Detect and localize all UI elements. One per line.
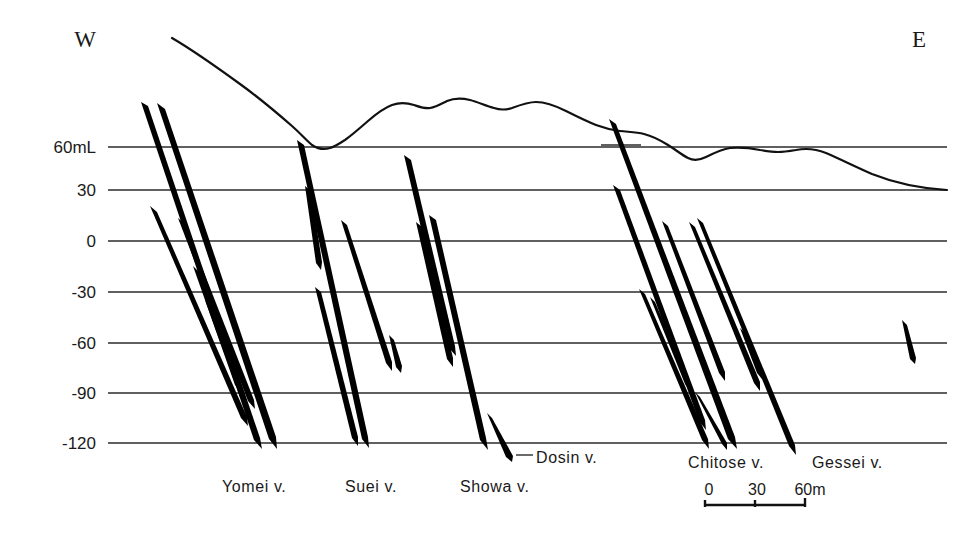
vein-label-showa: Showa v. (460, 478, 529, 495)
vein-label-yomei: Yomei v. (222, 478, 286, 495)
cross-section-canvas: W E 60mL 30 0 -30 -60 -90 -120 Yomei v. … (0, 0, 969, 533)
axis-label-minus60: -60 (71, 334, 96, 353)
vein-label-chitose: Chitose v. (688, 454, 764, 471)
axis-label-minus90: -90 (71, 384, 96, 403)
vein-group-suei (297, 140, 392, 448)
cross-section-figure: W E 60mL 30 0 -30 -60 -90 -120 Yomei v. … (0, 0, 969, 533)
compass-east-label: E (912, 27, 926, 52)
axis-label-60: 60mL (53, 138, 96, 157)
vein-showa-1 (404, 155, 456, 356)
vein-name-labels: Yomei v. Suei v. Showa v. Dosin v. Chito… (222, 449, 883, 495)
vein-suei-1 (297, 140, 369, 448)
axis-label-minus30: -30 (71, 283, 96, 302)
scale-tick-label-60: 60m (794, 481, 825, 498)
vein-group-showa (389, 155, 488, 450)
vein-gessei-2 (902, 320, 916, 364)
axis-label-0: 0 (87, 232, 96, 251)
scale-bar: 0 30 60m (705, 481, 826, 507)
axis-label-minus120: -120 (62, 434, 96, 453)
vein-yomei-4 (178, 218, 255, 409)
vein-dosin-1 (487, 413, 513, 462)
topographic-surface-line (172, 38, 947, 190)
vein-group-yomei (141, 102, 277, 449)
vein-group-gessei (697, 218, 916, 455)
vein-label-suei: Suei v. (345, 478, 397, 495)
vein-yomei-6 (205, 300, 245, 403)
compass-west-label: W (74, 27, 96, 52)
vein-label-dosin: Dosin v. (536, 449, 597, 466)
axis-label-30: 30 (77, 181, 96, 200)
vein-suei-4 (341, 220, 392, 371)
vein-yomei-2 (157, 103, 277, 449)
vein-label-gessei: Gessei v. (812, 454, 883, 471)
vein-showa-2 (429, 215, 488, 450)
vein-chitose-4 (689, 222, 760, 391)
vein-group-dosin (487, 413, 533, 462)
scale-tick-label-0: 0 (705, 481, 714, 498)
scale-tick-label-30: 30 (748, 481, 766, 498)
vein-group-chitose (609, 119, 762, 450)
elevation-axis-labels: 60mL 30 0 -30 -60 -90 -120 (53, 138, 96, 453)
